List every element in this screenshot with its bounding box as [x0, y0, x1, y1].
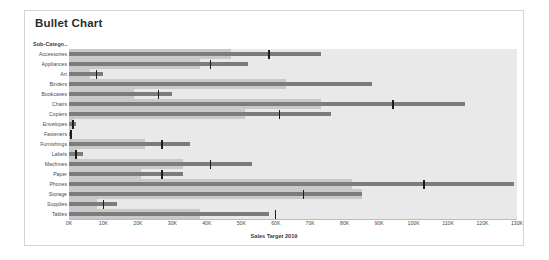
target-marker: [210, 60, 211, 69]
actual-bar[interactable]: [69, 62, 248, 67]
bullet-row: [69, 169, 517, 179]
x-tick-label: 110K: [442, 220, 454, 226]
target-marker: [268, 50, 269, 59]
x-tick-label: 80K: [340, 220, 349, 226]
category-label[interactable]: Copiers: [49, 111, 67, 117]
actual-bar[interactable]: [69, 72, 103, 77]
actual-bar[interactable]: [69, 102, 465, 107]
category-label[interactable]: Storage: [49, 191, 67, 197]
actual-bar[interactable]: [69, 202, 117, 207]
row-axis-header: Sub-Catego..: [33, 41, 67, 47]
target-marker: [96, 70, 97, 79]
category-label[interactable]: Bookcases: [42, 91, 67, 97]
bullet-row: [69, 199, 517, 209]
x-tick-label: 50K: [237, 220, 246, 226]
x-tick-label: 130K: [511, 220, 523, 226]
x-tick-label: 40K: [202, 220, 211, 226]
x-tick-label: 0K: [66, 220, 72, 226]
actual-bar[interactable]: [69, 192, 362, 197]
bullet-row: [69, 179, 517, 189]
target-marker: [303, 190, 304, 199]
category-label[interactable]: Appliances: [42, 61, 67, 67]
actual-bar[interactable]: [69, 172, 183, 177]
bullet-row: [69, 69, 517, 79]
category-label[interactable]: Furnishings: [40, 141, 67, 147]
category-label[interactable]: Tables: [52, 211, 67, 217]
bullet-row: [69, 159, 517, 169]
target-marker: [75, 150, 76, 159]
bullet-row: [69, 89, 517, 99]
target-marker: [161, 140, 162, 149]
actual-bar[interactable]: [69, 92, 172, 97]
bullet-row: [69, 129, 517, 139]
actual-bar[interactable]: [69, 142, 190, 147]
plot-area: [69, 49, 517, 219]
category-label[interactable]: Machines: [45, 161, 67, 167]
target-marker: [72, 120, 73, 129]
category-label[interactable]: Accessories: [39, 51, 67, 57]
category-label[interactable]: Envelopes: [43, 121, 67, 127]
target-marker: [392, 100, 393, 109]
target-marker: [423, 180, 424, 189]
target-marker: [279, 110, 280, 119]
category-label[interactable]: Labels: [52, 151, 67, 157]
category-label-list: AccessoriesAppliancesArtBindersBookcases…: [27, 49, 69, 219]
actual-bar[interactable]: [69, 82, 372, 87]
target-marker: [70, 130, 71, 139]
x-tick-label: 20K: [133, 220, 142, 226]
actual-bar[interactable]: [69, 112, 331, 117]
bullet-row: [69, 189, 517, 199]
x-axis-tick-labels: 0K10K20K30K40K50K60K70K80K90K100K110K120…: [25, 220, 523, 232]
category-label[interactable]: Phones: [49, 181, 67, 187]
x-tick-label: 120K: [476, 220, 488, 226]
bullet-row: [69, 149, 517, 159]
target-marker: [210, 160, 211, 169]
x-tick-label: 100K: [408, 220, 420, 226]
category-label[interactable]: Art: [60, 71, 67, 77]
bullet-row: [69, 209, 517, 219]
x-tick-label: 70K: [306, 220, 315, 226]
screenshot-root: Bullet Chart Sub-Catego.. AccessoriesApp…: [0, 0, 549, 260]
bullet-row: [69, 119, 517, 129]
category-label[interactable]: Fasteners: [44, 131, 67, 137]
x-tick-label: 90K: [375, 220, 384, 226]
category-label[interactable]: Binders: [49, 81, 67, 87]
bullet-row: [69, 139, 517, 149]
target-marker: [103, 200, 104, 209]
bullet-chart-card: Bullet Chart Sub-Catego.. AccessoriesApp…: [24, 10, 524, 246]
x-axis-title: Sales Target 2019: [25, 233, 523, 239]
bullet-row: [69, 109, 517, 119]
category-label[interactable]: Paper: [53, 171, 67, 177]
bullet-row: [69, 79, 517, 89]
target-marker: [158, 90, 159, 99]
x-tick-label: 30K: [168, 220, 177, 226]
target-marker: [161, 170, 162, 179]
bullet-row: [69, 59, 517, 69]
actual-bar[interactable]: [69, 182, 514, 187]
category-label[interactable]: Supplies: [47, 201, 67, 207]
x-tick-label: 60K: [271, 220, 280, 226]
actual-bar[interactable]: [69, 162, 252, 167]
bullet-row: [69, 99, 517, 109]
target-marker: [275, 210, 276, 219]
x-tick-label: 10K: [99, 220, 108, 226]
actual-bar[interactable]: [69, 212, 269, 217]
actual-bar[interactable]: [69, 52, 321, 57]
category-label[interactable]: Chairs: [52, 101, 67, 107]
bullet-row: [69, 49, 517, 59]
page-title: Bullet Chart: [35, 17, 103, 29]
